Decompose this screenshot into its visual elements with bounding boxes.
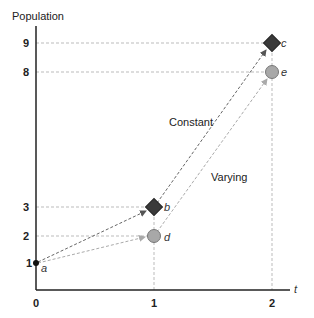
point-a	[33, 260, 39, 266]
population-diagram: Population t 9 8 3 2 1 0 1 2 a b c d e C…	[0, 0, 314, 318]
label-c: c	[281, 37, 287, 49]
point-b-diamond	[146, 199, 163, 216]
label-a: a	[41, 262, 47, 274]
y-tick-9: 9	[23, 37, 29, 49]
point-c-diamond	[264, 35, 281, 52]
x-axis-label: t	[294, 283, 298, 295]
x-tick-1: 1	[151, 297, 157, 309]
y-tick-8: 8	[23, 66, 29, 78]
point-d-circle	[148, 230, 161, 243]
guide-lines	[36, 43, 272, 290]
constant-label: Constant	[169, 116, 213, 128]
x-tick-0: 0	[33, 297, 39, 309]
y-tick-3: 3	[23, 201, 29, 213]
label-d: d	[164, 231, 171, 243]
x-tick-2: 2	[269, 297, 275, 309]
y-tick-2: 2	[23, 230, 29, 242]
label-b: b	[164, 201, 170, 213]
y-axis-label: Population	[12, 10, 64, 22]
point-e-circle	[266, 66, 279, 79]
label-e: e	[281, 66, 287, 78]
varying-label: Varying	[211, 171, 247, 183]
y-tick-1: 1	[26, 257, 32, 269]
